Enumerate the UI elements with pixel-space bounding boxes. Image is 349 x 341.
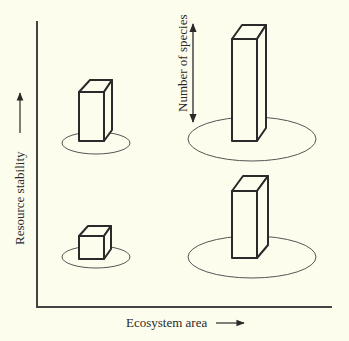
species-bar [232,25,266,141]
y-axis-label: Resource stability [12,151,27,245]
species-bar [79,226,111,259]
species-bar [232,176,268,258]
quadrant-top-left [62,80,130,154]
number-of-species-label: Number of species [175,15,190,112]
quadrant-bottom-right [188,176,316,278]
quadrant-bottom-left [62,226,130,268]
annotation-label-group: Number of species [175,15,190,112]
x-axis-label: Ecosystem area [126,315,207,330]
species-bar [79,80,112,141]
y-axis-label-group: Resource stability [12,93,27,245]
quadrant-top-right: Number of species [175,15,316,161]
ecosystem-species-diagram: Resource stability Ecosystem area [0,0,349,341]
x-axis-label-group: Ecosystem area [126,315,244,330]
